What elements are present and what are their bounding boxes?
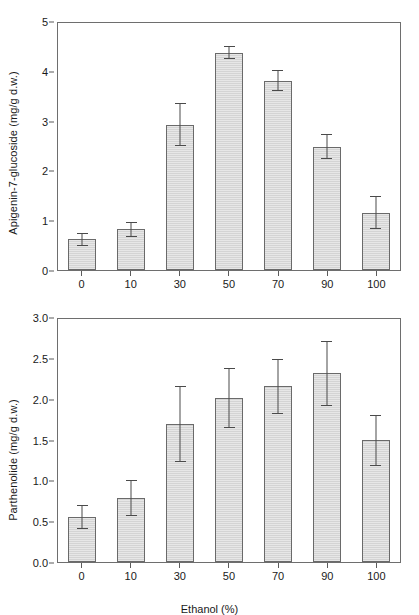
bar-slot <box>205 23 254 270</box>
x-axis-tick-labels-bottom: 01030507090100 <box>57 570 401 582</box>
x-tick-label: 0 <box>57 570 106 582</box>
x-axis-title: Ethanol (%) <box>0 603 419 615</box>
y-tick-label: 5 <box>42 16 48 28</box>
bar-slot <box>205 319 254 562</box>
error-bar <box>131 480 132 516</box>
y-tick-mark <box>49 358 54 359</box>
y-tick-label: 1 <box>42 215 48 227</box>
y-tick-label: 0.5 <box>33 516 48 528</box>
bar-slot <box>156 319 205 562</box>
y-tick-mark <box>49 481 54 482</box>
x-tick-label: 50 <box>204 570 253 582</box>
y-tick-label: 4 <box>42 66 48 78</box>
x-tick-label: 10 <box>106 570 155 582</box>
chart-panel-parthenolide: Parthenolide (mg/g d.w.) 0.00.51.01.52.0… <box>0 305 419 615</box>
y-tick-label: 3.0 <box>33 312 48 324</box>
x-tick-mark-slot <box>303 271 352 276</box>
x-tick-label: 100 <box>352 570 401 582</box>
error-bar <box>82 233 83 246</box>
x-axis-tick-marks-bottom <box>57 563 401 568</box>
y-axis-ticks-bottom: 0.00.51.01.52.02.53.0 <box>24 318 54 563</box>
bar-slot <box>58 319 107 562</box>
x-tick-label: 90 <box>303 278 352 290</box>
bar-slot <box>156 23 205 270</box>
x-tick-mark <box>376 563 377 568</box>
y-tick-mark <box>49 522 54 523</box>
x-tick-mark-slot <box>204 271 253 276</box>
x-tick-label: 90 <box>303 570 352 582</box>
error-bar <box>277 359 278 415</box>
x-tick-mark <box>376 271 377 276</box>
bar <box>264 81 292 270</box>
x-tick-mark <box>130 563 131 568</box>
x-tick-label: 0 <box>57 278 106 290</box>
y-tick-mark <box>49 121 54 122</box>
bar <box>215 53 243 270</box>
error-bar <box>180 103 181 146</box>
x-tick-mark-slot <box>106 271 155 276</box>
y-axis-ticks-top: 012345 <box>24 22 54 271</box>
x-tick-mark-slot <box>303 563 352 568</box>
bar-slot <box>351 23 400 270</box>
y-axis-title-bottom: Parthenolide (mg/g d.w.) <box>0 305 26 615</box>
y-tick-mark <box>49 563 54 564</box>
bar-slot <box>253 319 302 562</box>
y-tick-label: 2.5 <box>33 353 48 365</box>
y-tick-label: 0 <box>42 265 48 277</box>
x-tick-label: 30 <box>155 570 204 582</box>
x-tick-mark-slot <box>254 271 303 276</box>
bar-slot <box>302 23 351 270</box>
bar-slot <box>107 319 156 562</box>
x-tick-mark-slot <box>155 563 204 568</box>
x-tick-mark <box>130 271 131 276</box>
x-tick-label: 70 <box>254 278 303 290</box>
y-tick-label: 3 <box>42 116 48 128</box>
y-tick-label: 2 <box>42 165 48 177</box>
chart-panel-apigenin: Apigenin-7-glucoside (mg/g d.w.) 012345 … <box>0 0 419 305</box>
y-tick-label: 1.0 <box>33 475 48 487</box>
plot-area-bottom <box>57 318 401 563</box>
x-tick-mark-slot <box>57 563 106 568</box>
y-axis-title-top: Apigenin-7-glucoside (mg/g d.w.) <box>0 0 26 305</box>
x-tick-mark-slot <box>155 271 204 276</box>
x-axis-tick-labels-top: 01030507090100 <box>57 278 401 290</box>
x-tick-mark <box>228 271 229 276</box>
x-tick-label: 10 <box>106 278 155 290</box>
x-tick-mark <box>278 271 279 276</box>
x-tick-label: 100 <box>352 278 401 290</box>
plot-area-top <box>57 22 401 271</box>
x-tick-mark <box>228 563 229 568</box>
error-bar <box>375 196 376 229</box>
bar-slot <box>302 319 351 562</box>
x-tick-mark <box>179 563 180 568</box>
x-tick-label: 30 <box>155 278 204 290</box>
y-tick-mark <box>49 318 54 319</box>
y-tick-mark <box>49 221 54 222</box>
error-bar <box>229 46 230 59</box>
x-tick-label: 70 <box>254 570 303 582</box>
bar-slot <box>253 23 302 270</box>
y-tick-label: 1.5 <box>33 435 48 447</box>
x-tick-mark-slot <box>106 563 155 568</box>
error-bar <box>82 505 83 530</box>
bar-series-parthenolide <box>58 319 400 562</box>
x-tick-mark <box>179 271 180 276</box>
x-tick-mark-slot <box>204 563 253 568</box>
x-tick-mark <box>327 271 328 276</box>
x-tick-mark-slot <box>57 271 106 276</box>
x-tick-mark <box>81 563 82 568</box>
x-tick-mark-slot <box>254 563 303 568</box>
error-bar <box>277 70 278 91</box>
x-axis-tick-marks-top <box>57 271 401 276</box>
bar-slot <box>351 319 400 562</box>
x-tick-mark-slot <box>352 271 401 276</box>
y-tick-label: 0.0 <box>33 557 48 569</box>
error-bar <box>375 415 376 466</box>
y-tick-mark <box>49 22 54 23</box>
x-tick-label: 50 <box>204 278 253 290</box>
y-tick-label: 2.0 <box>33 394 48 406</box>
figure-container: Apigenin-7-glucoside (mg/g d.w.) 012345 … <box>0 0 419 615</box>
bar-series-apigenin <box>58 23 400 270</box>
bar-slot <box>107 23 156 270</box>
x-tick-mark-slot <box>352 563 401 568</box>
